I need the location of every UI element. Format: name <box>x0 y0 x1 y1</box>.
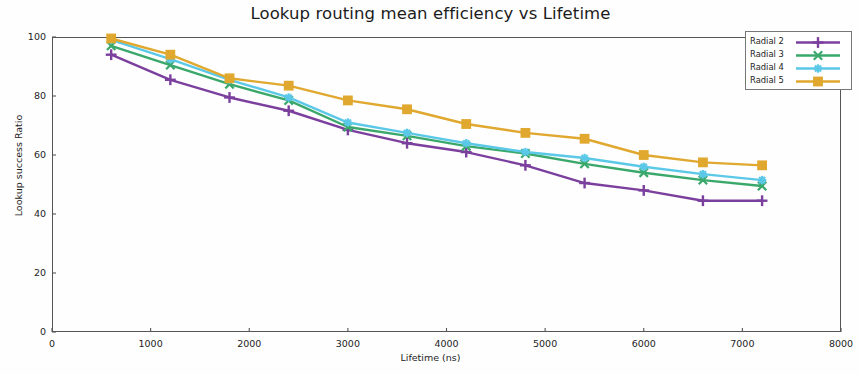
legend-item-3[interactable]: Radial 4 <box>750 60 848 73</box>
series-3 <box>107 36 766 185</box>
x-tick-label: 0 <box>27 338 77 349</box>
legend-label: Radial 4 <box>750 62 794 72</box>
y-axis-label: Lookup success Ratio <box>13 106 24 226</box>
legend-swatch <box>794 47 848 60</box>
chart-figure: Lookup routing mean efficiency vs Lifeti… <box>0 0 861 374</box>
legend-label: Radial 2 <box>750 36 794 46</box>
x-tick-label: 1000 <box>126 338 176 349</box>
series-1 <box>106 49 768 206</box>
x-tick-label: 2000 <box>224 338 274 349</box>
x-tick-label: 7000 <box>717 338 767 349</box>
legend-item-4[interactable]: Radial 5 <box>750 73 848 86</box>
legend-item-2[interactable]: Radial 3 <box>750 47 848 60</box>
chart-canvas <box>0 0 861 374</box>
legend-swatch <box>794 73 848 86</box>
y-tick-label: 0 <box>12 326 46 337</box>
x-axis-label: Lifetime (ns) <box>0 352 861 363</box>
legend-swatch <box>794 60 848 73</box>
chart-legend: Radial 2Radial 3Radial 4Radial 5 <box>745 31 852 90</box>
x-tick-label: 8000 <box>816 338 861 349</box>
series-4 <box>107 34 766 169</box>
x-tick-label: 3000 <box>323 338 373 349</box>
x-tick-label: 6000 <box>619 338 669 349</box>
legend-label: Radial 3 <box>750 49 794 59</box>
y-tick-label: 80 <box>12 90 46 101</box>
legend-swatch <box>794 34 848 47</box>
x-tick-label: 5000 <box>520 338 570 349</box>
data-series-layer <box>106 34 768 206</box>
legend-item-1[interactable]: Radial 2 <box>750 34 848 47</box>
y-tick-label: 100 <box>12 31 46 42</box>
y-tick-label: 20 <box>12 267 46 278</box>
x-tick-label: 4000 <box>422 338 472 349</box>
legend-label: Radial 5 <box>750 75 794 85</box>
